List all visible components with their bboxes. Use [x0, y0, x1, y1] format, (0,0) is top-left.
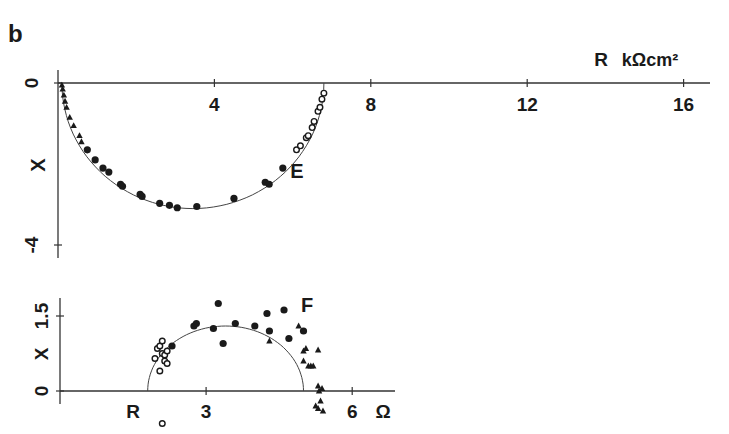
- data-point-filled-triangle: [76, 132, 82, 138]
- x-tick-label: 6: [347, 401, 358, 422]
- data-point-open-circle: [164, 348, 170, 354]
- data-point-open-circle: [164, 361, 170, 367]
- y-axis-label: X: [27, 158, 49, 172]
- data-point-filled-circle: [232, 320, 239, 327]
- data-point-filled-circle: [279, 164, 286, 171]
- data-point-open-circle: [298, 143, 304, 149]
- data-point-filled-circle: [266, 327, 273, 334]
- data-point-filled-circle: [168, 342, 175, 349]
- x-tick-label: 12: [517, 94, 538, 115]
- fit-curve: [148, 326, 304, 391]
- figure-canvas: 4812160-4XRkΩcm²E 3601.5XRΩF b: [0, 0, 729, 434]
- panel-label: b: [8, 20, 23, 47]
- data-point-filled-triangle: [70, 122, 76, 128]
- x-unit-label: kΩcm²: [622, 50, 678, 70]
- y-tick-label: 0: [21, 78, 42, 89]
- chart-e: 4812160-4XRkΩcm²E: [21, 49, 710, 258]
- data-point-filled-triangle: [295, 323, 301, 329]
- data-point-filled-triangle: [61, 92, 67, 98]
- series-label-e: E: [290, 160, 303, 182]
- y-tick-label: -4: [21, 236, 42, 253]
- series-label-f: F: [301, 294, 313, 316]
- data-point-open-circle: [152, 356, 158, 362]
- data-point-filled-circle: [193, 320, 200, 327]
- data-point-filled-circle: [99, 164, 106, 171]
- data-point-filled-circle: [266, 181, 273, 188]
- data-point-filled-circle: [138, 193, 145, 200]
- x-tick-label: 8: [366, 94, 377, 115]
- chart-f: 3601.5XRΩF: [31, 294, 395, 426]
- data-point-filled-circle: [300, 327, 307, 334]
- data-point-filled-triangle: [315, 383, 321, 389]
- x-tick-label: 16: [673, 94, 694, 115]
- data-point-open-circle: [305, 133, 311, 139]
- data-point-filled-circle: [263, 310, 270, 317]
- data-point-filled-triangle: [78, 138, 84, 144]
- x-tick-label: 3: [201, 401, 212, 422]
- data-point-open-circle: [159, 421, 165, 427]
- data-point-open-circle: [321, 90, 327, 96]
- data-point-filled-circle: [210, 325, 217, 332]
- data-point-filled-circle: [193, 203, 200, 210]
- data-point-filled-circle: [251, 322, 258, 329]
- data-point-filled-circle: [220, 340, 227, 347]
- data-point-filled-triangle: [300, 358, 306, 364]
- data-point-open-circle: [317, 105, 323, 111]
- data-point-filled-circle: [280, 306, 287, 313]
- data-point-filled-triangle: [317, 398, 323, 404]
- data-point-open-circle: [319, 96, 325, 102]
- x-unit-label: Ω: [375, 401, 390, 422]
- x-tick-label: 4: [209, 94, 220, 115]
- x-axis-label: R: [594, 49, 608, 70]
- fit-curve: [62, 83, 324, 209]
- y-axis-label: X: [31, 347, 52, 360]
- data-point-open-circle: [311, 119, 317, 125]
- data-point-filled-circle: [105, 169, 112, 176]
- y-tick-label: 1.5: [31, 302, 52, 329]
- y-tick-label: 0: [31, 386, 52, 397]
- data-point-filled-circle: [285, 335, 292, 342]
- data-point-filled-circle: [215, 300, 222, 307]
- data-point-open-circle: [157, 368, 163, 374]
- data-point-open-circle: [159, 338, 165, 344]
- x-axis-label: R: [126, 401, 140, 422]
- data-point-filled-circle: [230, 195, 237, 202]
- data-point-open-circle: [309, 125, 315, 131]
- data-point-filled-circle: [119, 183, 126, 190]
- data-point-filled-triangle: [315, 347, 321, 353]
- data-point-filled-circle: [92, 156, 99, 163]
- data-point-filled-circle: [156, 200, 163, 207]
- data-point-filled-circle: [166, 202, 173, 209]
- data-point-filled-circle: [174, 204, 181, 211]
- data-point-filled-circle: [84, 146, 91, 153]
- data-point-filled-triangle: [67, 114, 73, 120]
